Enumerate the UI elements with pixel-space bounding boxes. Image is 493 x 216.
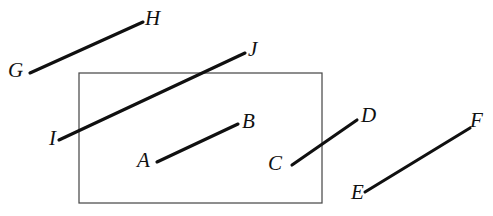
segment-AB [157, 124, 238, 162]
segment-IJ [59, 53, 245, 140]
point-label-H: H [145, 8, 160, 29]
point-label-B: B [242, 111, 255, 132]
segment-GH [30, 22, 143, 73]
point-label-A: A [137, 150, 150, 171]
rectangle-shape [79, 73, 322, 203]
point-label-F: F [470, 110, 483, 131]
point-label-C: C [268, 153, 282, 174]
point-label-J: J [248, 39, 257, 60]
point-label-D: D [361, 105, 376, 126]
point-label-G: G [8, 60, 23, 81]
segment-CD [292, 120, 357, 165]
point-label-I: I [49, 128, 56, 149]
segment-EF [365, 128, 470, 192]
figure-canvas [0, 0, 493, 216]
point-label-E: E [351, 182, 364, 203]
geometry-figure: A B C D E F G H I J [0, 0, 493, 216]
